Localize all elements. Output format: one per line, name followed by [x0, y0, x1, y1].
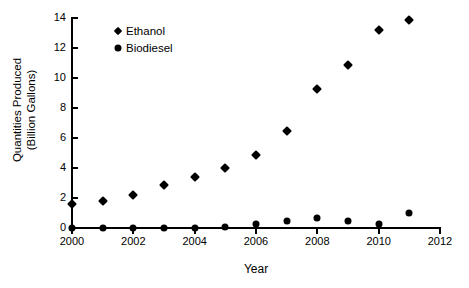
y-axis-tick-label: 0: [44, 222, 66, 233]
y-axis-title: Quantities Produced (Billion Gallons): [10, 30, 38, 190]
data-point-ethanol: [67, 199, 77, 209]
y-axis-tick-label: 8: [44, 102, 66, 113]
legend-item-ethanol[interactable]: Ethanol: [112, 22, 222, 39]
data-point-biodiesel: [130, 225, 137, 232]
x-axis-tick-label: 2012: [418, 236, 462, 247]
data-point-biodiesel: [69, 225, 76, 232]
data-point-ethanol: [282, 126, 292, 136]
x-axis-tick-label: 2000: [50, 236, 94, 247]
x-axis-title: Year: [72, 262, 440, 276]
legend-label: Biodiesel: [126, 42, 173, 54]
data-point-biodiesel: [191, 225, 198, 232]
data-point-ethanol: [251, 150, 261, 160]
y-axis-tick-label: 10: [44, 72, 66, 83]
x-axis-tick-label: 2002: [111, 236, 155, 247]
y-axis-tick-label: 6: [44, 132, 66, 143]
data-point-biodiesel: [406, 210, 413, 217]
chart-legend: EthanolBiodiesel: [112, 22, 222, 56]
data-point-ethanol: [98, 196, 108, 206]
data-point-ethanol: [159, 180, 169, 190]
data-point-ethanol: [404, 15, 414, 25]
data-point-biodiesel: [375, 220, 382, 227]
data-point-ethanol: [343, 60, 353, 70]
data-point-biodiesel: [222, 223, 229, 230]
y-axis-title-line2: (Billion Gallons): [24, 30, 38, 190]
y-axis-title-line1: Quantities Produced: [10, 30, 24, 190]
legend-label: Ethanol: [126, 25, 165, 37]
data-point-biodiesel: [253, 221, 260, 228]
x-axis-tick: [439, 229, 441, 234]
data-point-biodiesel: [314, 214, 321, 221]
x-axis-tick-label: 2010: [357, 236, 401, 247]
x-axis-tick-label: 2008: [295, 236, 339, 247]
x-axis-tick: [255, 229, 257, 234]
y-axis-tick-label: 4: [44, 162, 66, 173]
data-point-ethanol: [374, 25, 384, 35]
chart-figure: Quantities Produced (Billion Gallons) 02…: [0, 0, 469, 288]
legend-item-biodiesel[interactable]: Biodiesel: [112, 39, 222, 56]
circle-marker-icon: [112, 42, 124, 54]
x-axis-tick-label: 2004: [173, 236, 217, 247]
data-point-ethanol: [220, 163, 230, 173]
y-axis-title-wrapper: Quantities Produced (Billion Gallons): [0, 0, 1, 288]
data-point-ethanol: [312, 84, 322, 94]
data-point-biodiesel: [283, 217, 290, 224]
diamond-marker-icon: [112, 25, 124, 37]
x-axis-tick: [316, 229, 318, 234]
y-axis-tick-label: 2: [44, 192, 66, 203]
x-axis-tick: [378, 229, 380, 234]
data-point-ethanol: [190, 172, 200, 182]
data-point-biodiesel: [161, 225, 168, 232]
y-axis-tick-label: 12: [44, 42, 66, 53]
x-axis-tick-label: 2006: [234, 236, 278, 247]
data-point-biodiesel: [345, 217, 352, 224]
data-point-biodiesel: [99, 225, 106, 232]
data-point-ethanol: [128, 190, 138, 200]
y-axis-tick-label: 14: [44, 12, 66, 23]
